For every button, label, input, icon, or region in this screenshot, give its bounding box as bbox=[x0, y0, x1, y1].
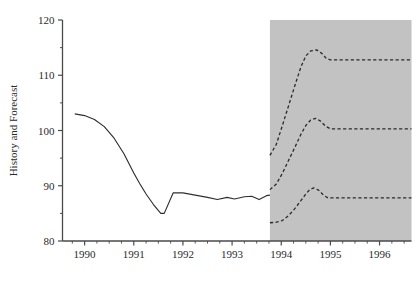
forecast-shaded-region bbox=[270, 20, 412, 241]
x-tick-label: 1991 bbox=[123, 248, 145, 260]
x-tick-label: 1996 bbox=[369, 248, 392, 260]
y-tick-label: 120 bbox=[38, 14, 55, 26]
y-tick-label: 110 bbox=[38, 69, 55, 81]
y-axis-title: History and Forecast bbox=[7, 85, 19, 177]
x-tick-label: 1993 bbox=[221, 248, 244, 260]
x-tick-label: 1992 bbox=[172, 248, 194, 260]
x-tick-label: 1995 bbox=[319, 248, 342, 260]
history-and-forecast-chart: 8090100110120199019911992199319941995199… bbox=[0, 0, 419, 285]
y-tick-label: 80 bbox=[44, 235, 56, 247]
y-tick-label: 90 bbox=[44, 180, 56, 192]
x-tick-label: 1994 bbox=[270, 248, 293, 260]
forecast-shade-rect bbox=[270, 20, 412, 241]
x-tick-label: 1990 bbox=[74, 248, 97, 260]
chart-container: 8090100110120199019911992199319941995199… bbox=[0, 0, 419, 285]
y-tick-label: 100 bbox=[38, 125, 55, 137]
